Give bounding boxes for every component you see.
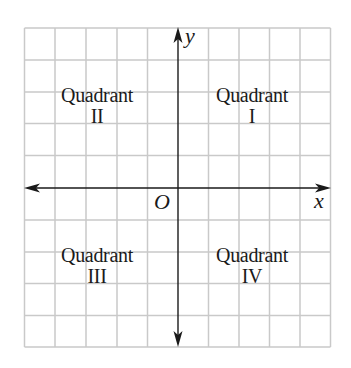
quadrant-ii-name: Quadrant	[37, 85, 157, 106]
quadrant-iv-numeral: IV	[192, 266, 312, 287]
origin-label: O	[154, 191, 170, 213]
quadrant-iii-label: Quadrant III	[37, 245, 157, 287]
y-axis-label: y	[185, 25, 195, 47]
quadrant-iv-label: Quadrant IV	[192, 245, 312, 287]
quadrant-iv-name: Quadrant	[192, 245, 312, 266]
x-axis-label: x	[314, 190, 324, 212]
quadrant-i-numeral: I	[192, 106, 312, 127]
quadrant-iii-numeral: III	[37, 266, 157, 287]
quadrant-ii-numeral: II	[37, 106, 157, 127]
quadrant-i-label: Quadrant I	[192, 85, 312, 127]
coordinate-plane	[0, 0, 351, 368]
quadrant-ii-label: Quadrant II	[37, 85, 157, 127]
quadrant-iii-name: Quadrant	[37, 245, 157, 266]
quadrant-i-name: Quadrant	[192, 85, 312, 106]
y-axis	[174, 27, 183, 347]
